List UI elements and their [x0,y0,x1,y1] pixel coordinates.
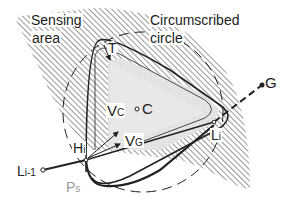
node-hi [84,158,88,162]
label-li1-main: L [17,163,25,179]
label-vc-main: V [107,102,117,119]
label-li: Li [210,128,222,142]
node-li1 [41,168,45,172]
label-ps: Ps [66,180,80,194]
label-circumscribed: Circumscribed [149,13,240,27]
label-ps-sub: s [75,183,80,194]
label-vc-sub: C [117,107,124,118]
label-area: area [31,31,61,45]
label-c: C [142,101,153,116]
label-hi-main: H [73,140,83,156]
label-t: T [107,41,118,55]
label-vc: VC [106,103,125,118]
label-g: G [265,75,277,90]
node-g [260,83,265,88]
label-hi-sub: i [83,144,85,155]
label-li-main: L [211,127,219,143]
label-li1-sub: i-1 [25,167,36,178]
label-vg-main: V [125,132,135,149]
label-vg-sub: G [135,137,143,148]
label-ps-main: P [66,179,75,195]
node-c [135,107,139,111]
path-li1-to-hi [43,160,86,170]
sensing-area-diagram: Sensing area Circumscribed circle T VC C… [0,0,289,203]
label-vg: VG [124,133,144,148]
label-li1: Li-1 [17,164,36,178]
label-sensing: Sensing [30,13,83,27]
label-circle: circle [149,31,184,45]
label-hi: Hi [72,141,86,155]
label-li-sub: i [219,131,221,142]
node-li [212,120,216,124]
